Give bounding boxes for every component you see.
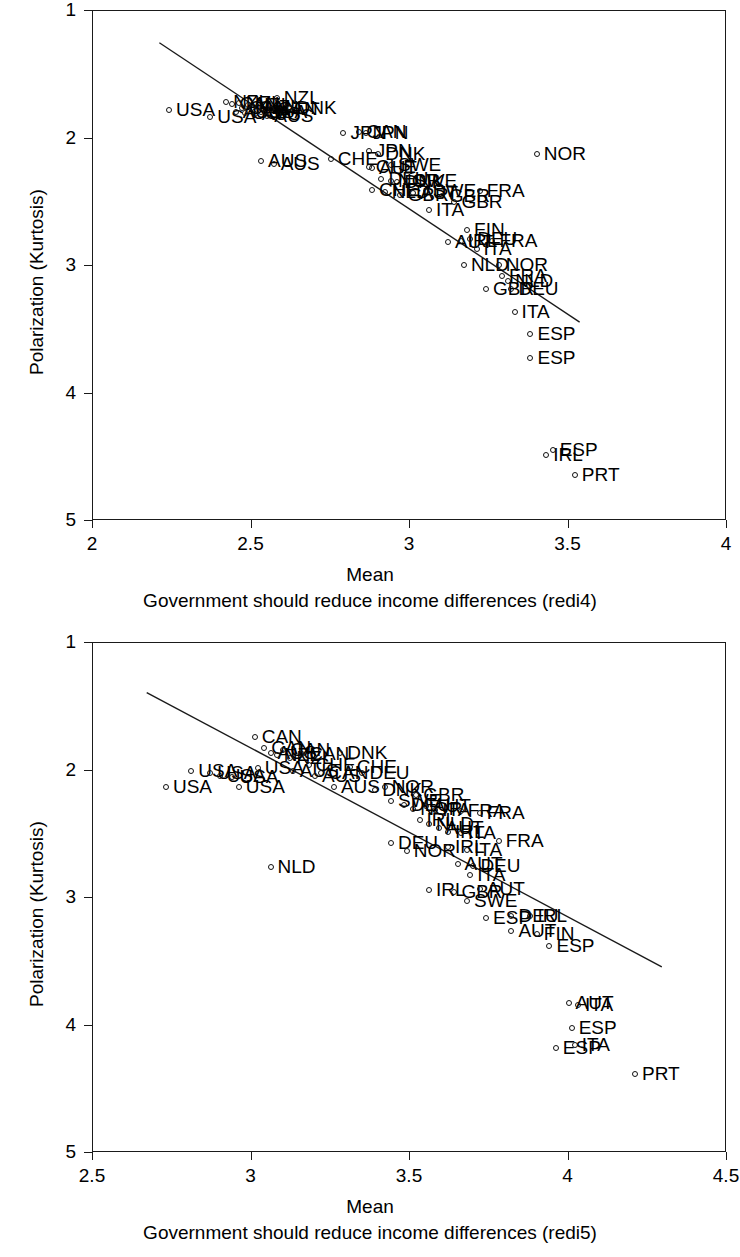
scatter-canvas-redi4 [93,11,725,519]
scatter-point-marker [461,262,467,268]
scatter-point-label: NOR [544,144,586,163]
scatter-point-label: ESP [560,440,598,459]
scatter-point-marker [382,784,388,790]
scatter-point-marker [268,864,274,870]
scatter-point-label: GBR [461,192,502,211]
scatter-point-marker [255,765,261,771]
scatter-point-marker [268,750,274,756]
scatter-point-label: NLD [278,857,316,876]
scatter-point-marker [261,745,267,751]
y-tick-mark [84,393,92,394]
scatter-point-marker [445,844,451,850]
scatter-point-marker [233,109,239,115]
scatter-point-marker [423,188,429,194]
y-tick-label: 2 [34,760,76,779]
scatter-point-marker [306,762,312,768]
scatter-point-marker [410,806,416,812]
scatter-point-marker [249,105,255,111]
scatter-point-marker [464,898,470,904]
scatter-point-marker [236,784,242,790]
y-tick-label: 4 [34,1015,76,1034]
x-tick-label: 2.5 [237,534,263,553]
x-tick-mark [568,1152,569,1160]
scatter-point-marker [477,810,483,816]
scatter-point-marker [287,755,293,761]
scatter-point-label: FRA [506,831,544,850]
scatter-point-marker [290,768,296,774]
scatter-point-marker [632,1071,638,1077]
x-axis-title: Mean [0,564,740,586]
x-tick-mark [409,520,410,528]
scatter-point-label: ESP [556,936,594,955]
scatter-point-marker [426,207,432,213]
y-tick-mark [84,265,92,266]
scatter-point-marker [445,239,451,245]
scatter-point-marker [217,773,223,779]
x-tick-label: 3.5 [396,1166,422,1185]
plot-area-redi5: USAUSAUSAUSAUSAUSACANUSACANAUSNZLCANNZLA… [92,642,726,1152]
scatter-point-marker [445,829,451,835]
scatter-point-marker [496,262,502,268]
scatter-point-marker [543,452,549,458]
x-tick-mark [409,1152,410,1160]
scatter-point-label: ITA [436,200,464,219]
x-tick-mark [251,520,252,528]
scatter-point-label: DEU [518,279,558,298]
scatter-point-label: ESP [537,348,575,367]
y-tick-mark [84,10,92,11]
scatter-point-label: ITA [585,995,613,1014]
scatter-point-marker [572,1042,578,1048]
x-tick-mark [726,1152,727,1160]
y-tick-label: 2 [34,128,76,147]
scatter-point-marker [401,802,407,808]
scatter-point-marker [550,447,556,453]
x-tick-label: 4 [562,1166,573,1185]
scatter-point-marker [252,111,258,117]
x-tick-mark [568,520,569,528]
plot-area-redi4: USAUSANZLCANAUSNZLCANUSANZLCANAUSNZLUSAA… [92,10,726,520]
scatter-point-label: AUS [281,154,320,173]
scatter-point-marker [534,931,540,937]
x-tick-mark [726,520,727,528]
x-tick-label: 2.5 [79,1166,105,1185]
y-tick-label: 5 [34,1142,76,1161]
scatter-point-marker [312,773,318,779]
chart-caption: Government should reduce income differen… [0,1222,740,1244]
y-tick-mark [84,1025,92,1026]
x-tick-label: 3 [404,534,415,553]
scatter-point-marker [328,156,334,162]
scatter-point-marker [534,151,540,157]
scatter-point-marker [436,825,442,831]
scatter-point-marker [347,764,353,770]
x-tick-label: 3 [245,1166,256,1185]
scatter-point-marker [566,1000,572,1006]
scatter-point-marker [458,238,464,244]
scatter-point-marker [372,787,378,793]
scatter-point-marker [417,817,423,823]
scatter-point-label: ITA [582,1035,610,1054]
regression-line [147,693,662,967]
x-tick-mark [92,520,93,528]
scatter-point-marker [512,309,518,315]
scatter-point-marker [369,165,375,171]
y-tick-mark [84,770,92,771]
scatter-point-marker [163,784,169,790]
x-tick-label: 4.5 [713,1166,739,1185]
scatter-point-marker [483,286,489,292]
scatter-point-label: PRT [642,1064,680,1083]
y-tick-label: 5 [34,510,76,529]
x-axis-title: Mean [0,1196,740,1218]
scatter-point-label: ESP [537,324,575,343]
scatter-point-marker [274,95,280,101]
x-tick-mark [251,1152,252,1160]
x-tick-label: 4 [721,534,732,553]
scatter-point-marker [258,109,264,115]
scatter-point-marker [382,189,388,195]
scatter-point-marker [271,161,277,167]
scatter-point-marker [404,848,410,854]
y-tick-label: 4 [34,383,76,402]
x-tick-label: 2 [87,534,98,553]
scatter-point-label: NLD [471,255,509,274]
y-tick-mark [84,1152,92,1153]
y-tick-label: 1 [34,632,76,651]
